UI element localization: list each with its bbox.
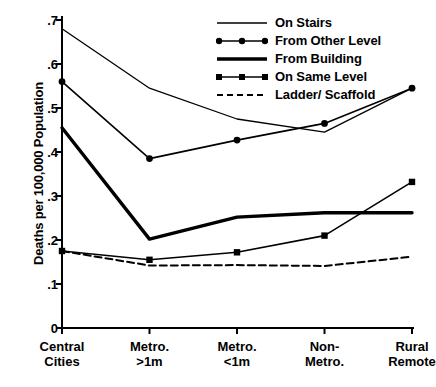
legend-item: From Other Level [216, 32, 381, 49]
x-tick-label: Non-Metro. [305, 339, 344, 369]
legend-key-icon [216, 52, 268, 66]
legend-label: Ladder/ Scaffold [275, 87, 375, 102]
legend-key-icon [216, 16, 268, 30]
legend-item: From Building [216, 50, 381, 67]
x-tick-label-line: Metro. [218, 339, 257, 354]
legend-label: From Building [275, 51, 362, 66]
legend-key-icon [216, 34, 268, 48]
x-tick-label-line: <1m [218, 354, 257, 369]
chart-legend: On StairsFrom Other LevelFrom BuildingOn… [216, 14, 381, 104]
x-tick-label-line: >1m [130, 354, 169, 369]
x-tick-label: Metro.<1m [218, 339, 257, 369]
legend-item: On Same Level [216, 68, 381, 85]
x-tick-label-line: Cities [40, 354, 85, 369]
x-tick-label-line: Rural [388, 339, 436, 354]
x-tick-label-line: Metro. [130, 339, 169, 354]
x-tick-label-line: Central [40, 339, 85, 354]
legend-label: From Other Level [275, 33, 381, 48]
x-tick-label: Metro.>1m [130, 339, 169, 369]
legend-key-icon [216, 70, 268, 84]
legend-item: Ladder/ Scaffold [216, 86, 381, 103]
x-tick-label: CentralCities [40, 339, 85, 369]
x-tick-label-line: Non- [305, 339, 344, 354]
x-tick-label-line: Remote [388, 354, 436, 369]
x-tick-label-line: Metro. [305, 354, 344, 369]
legend-label: On Stairs [275, 15, 332, 30]
legend-item: On Stairs [216, 14, 381, 31]
legend-key-icon [216, 88, 268, 102]
x-tick-label: RuralRemote [388, 339, 436, 369]
series-from-building [62, 128, 412, 239]
legend-label: On Same Level [275, 69, 367, 84]
